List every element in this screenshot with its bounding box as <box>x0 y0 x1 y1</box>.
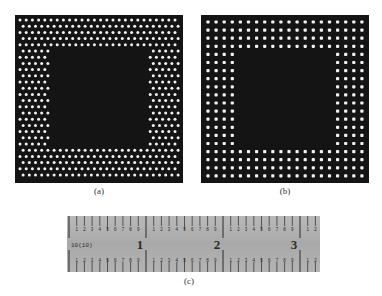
dot <box>136 155 139 158</box>
dot <box>93 155 96 158</box>
dot <box>136 19 139 22</box>
dot <box>239 150 242 153</box>
dot <box>105 31 108 34</box>
dot <box>34 112 37 115</box>
dot <box>360 134 363 137</box>
sub-label-top: 1 <box>75 227 78 232</box>
dot <box>121 161 124 164</box>
sub-label-top: 7 <box>276 227 279 232</box>
dot <box>81 31 84 34</box>
dot <box>59 174 62 177</box>
dot <box>65 149 68 152</box>
dot <box>19 68 22 71</box>
dot <box>155 68 158 71</box>
dot <box>279 174 282 177</box>
dot <box>231 93 234 96</box>
sub-label-top: 3 <box>168 227 171 232</box>
dot <box>37 93 40 96</box>
dot <box>46 149 49 152</box>
dot <box>164 174 167 177</box>
sub-label-bottom: 6 <box>191 258 194 263</box>
dot <box>19 81 22 84</box>
dot <box>34 136 37 139</box>
dot <box>37 105 40 108</box>
dot <box>22 37 25 40</box>
dot <box>231 53 234 56</box>
dot <box>336 126 339 129</box>
dot <box>223 53 226 56</box>
dot <box>174 56 177 59</box>
dot <box>352 110 355 113</box>
dot <box>43 155 46 158</box>
dot <box>155 155 158 158</box>
sub-label-top: 6 <box>114 227 117 232</box>
dot <box>40 25 43 28</box>
dot <box>215 134 218 137</box>
dot <box>68 167 71 170</box>
dot <box>328 29 331 32</box>
dot <box>247 20 250 23</box>
dot <box>215 45 218 48</box>
dot <box>206 174 209 177</box>
dot <box>167 167 170 170</box>
dot <box>344 158 347 161</box>
dot <box>161 143 164 146</box>
sub-label-top: 3 <box>245 227 248 232</box>
sub-label-top: 2 <box>237 227 240 232</box>
dot <box>296 37 299 40</box>
dot <box>74 19 77 22</box>
dot <box>62 19 65 22</box>
sub-label-top: 5 <box>183 227 186 232</box>
dot <box>206 85 209 88</box>
dot <box>170 124 173 127</box>
dot <box>46 37 49 40</box>
dot <box>223 126 226 129</box>
dot <box>152 74 155 77</box>
sub-label-bottom: 4 <box>176 258 179 263</box>
dot <box>62 155 65 158</box>
dot <box>231 20 234 23</box>
dot <box>102 161 105 164</box>
dot <box>65 37 68 40</box>
dot <box>255 45 258 48</box>
dot <box>53 174 56 177</box>
dot <box>170 25 173 28</box>
dot <box>223 45 226 48</box>
dot <box>34 25 37 28</box>
dot <box>352 69 355 72</box>
dot <box>231 142 234 145</box>
dot <box>344 110 347 113</box>
dot <box>37 155 40 158</box>
dot <box>50 155 53 158</box>
dot <box>28 124 31 127</box>
dot <box>25 155 28 158</box>
dot <box>108 161 111 164</box>
dot <box>65 25 68 28</box>
dot <box>206 134 209 137</box>
dot <box>167 143 170 146</box>
dot <box>105 155 108 158</box>
dot <box>352 85 355 88</box>
dot <box>164 87 167 90</box>
dot <box>130 155 133 158</box>
dot <box>279 29 282 32</box>
dot <box>40 37 43 40</box>
dot <box>99 19 102 22</box>
dot <box>155 31 158 34</box>
sub-label-top: 6 <box>268 227 271 232</box>
dot <box>37 43 40 46</box>
dot <box>139 25 142 28</box>
dot <box>167 56 170 59</box>
dot <box>133 174 136 177</box>
dot <box>99 31 102 34</box>
dot <box>43 56 46 59</box>
dot <box>206 93 209 96</box>
dot <box>231 110 234 113</box>
dot <box>215 126 218 129</box>
dot <box>31 167 34 170</box>
dot <box>215 93 218 96</box>
dot <box>37 56 40 59</box>
sub-label-top: 8 <box>129 227 132 232</box>
dot <box>352 93 355 96</box>
dot <box>223 142 226 145</box>
